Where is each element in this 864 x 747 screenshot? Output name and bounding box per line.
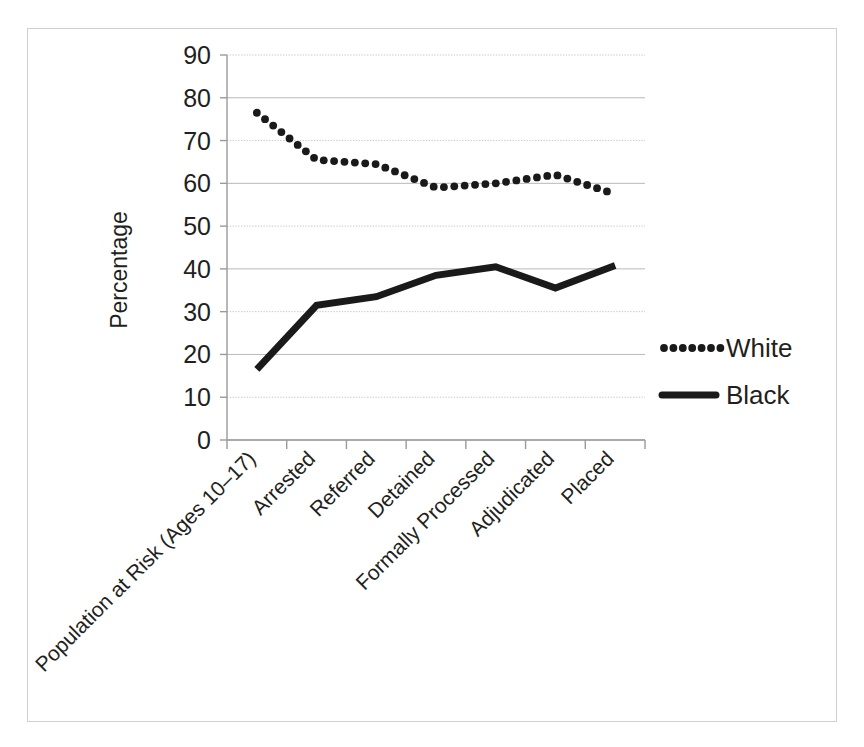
- white-series-dot: [253, 109, 261, 117]
- white-series-dot: [593, 184, 601, 192]
- white-series-dot: [554, 172, 562, 180]
- y-tick-labels: 0102030405060708090: [183, 41, 211, 454]
- y-tick-label: 60: [183, 169, 211, 197]
- legend-entry-white: White: [660, 333, 792, 363]
- legend-dot: [698, 344, 706, 352]
- legend: White Black: [660, 333, 792, 410]
- legend-entry-black: Black: [662, 380, 791, 410]
- white-series-dot: [381, 164, 389, 172]
- white-series-dot: [450, 182, 458, 190]
- y-tick-label: 40: [183, 255, 211, 283]
- dotted-line-icon: [660, 344, 724, 352]
- white-series-dot: [471, 181, 479, 189]
- legend-label-black: Black: [726, 380, 791, 410]
- legend-dot: [660, 344, 668, 352]
- white-series-dot: [492, 179, 500, 187]
- y-tick-label: 10: [183, 383, 211, 411]
- white-series-dot: [286, 135, 294, 143]
- white-series-dot: [430, 183, 438, 191]
- y-tick-marks: [220, 55, 227, 440]
- x-category-label: Population at Risk (Ages 10–17): [30, 447, 259, 676]
- y-tick-label: 90: [183, 41, 211, 69]
- white-series-dot: [512, 176, 520, 184]
- white-series-dot: [523, 175, 531, 183]
- white-series-dot: [563, 175, 571, 183]
- white-series-dot: [361, 159, 369, 167]
- legend-dot: [679, 344, 687, 352]
- white-series-dot: [261, 115, 269, 123]
- white-series-dot: [461, 182, 469, 190]
- legend-dot: [707, 344, 715, 352]
- y-gridlines: [227, 55, 645, 440]
- white-series-dot: [320, 156, 328, 164]
- data-series-layer: [253, 109, 615, 370]
- y-tick-label: 70: [183, 127, 211, 155]
- white-series-dot: [573, 178, 581, 186]
- x-category-label: Placed: [556, 447, 618, 509]
- x-tick-marks: [227, 440, 645, 449]
- y-tick-label: 50: [183, 212, 211, 240]
- legend-dot: [688, 344, 696, 352]
- white-series-dot: [502, 178, 510, 186]
- y-tick-label: 80: [183, 84, 211, 112]
- x-category-labels: Population at Risk (Ages 10–17)ArrestedR…: [30, 447, 618, 676]
- axis-lines: [227, 55, 645, 440]
- black-series-line: [257, 265, 615, 369]
- white-series-dot: [481, 180, 489, 188]
- white-series-dot: [294, 141, 302, 149]
- white-series-dot: [341, 158, 349, 166]
- white-series-dot: [543, 172, 551, 180]
- y-axis-title: Percentage: [106, 211, 132, 329]
- white-series-dot: [420, 179, 428, 187]
- white-series-dot: [310, 154, 318, 162]
- white-series-dot: [401, 171, 409, 179]
- line-chart: 0102030405060708090 Population at Risk (…: [0, 0, 864, 747]
- y-tick-label: 30: [183, 298, 211, 326]
- white-series-dot: [372, 160, 380, 168]
- white-series-dot: [330, 157, 338, 165]
- white-series-dot: [269, 122, 277, 130]
- series-white: [253, 109, 611, 195]
- white-series-dot: [277, 128, 285, 136]
- white-series-dot: [603, 187, 611, 195]
- white-series-dot: [302, 147, 310, 155]
- y-tick-label: 20: [183, 340, 211, 368]
- legend-dot: [670, 344, 678, 352]
- legend-dot: [717, 344, 725, 352]
- white-series-dot: [391, 168, 399, 176]
- white-series-dot: [533, 174, 541, 182]
- white-series-dot: [410, 175, 418, 183]
- white-series-dot: [583, 181, 591, 189]
- y-tick-label: 0: [197, 426, 211, 454]
- series-black: [257, 265, 615, 369]
- white-series-dot: [440, 183, 448, 191]
- white-series-dot: [351, 159, 359, 167]
- legend-label-white: White: [726, 333, 792, 363]
- figure-canvas: 0102030405060708090 Population at Risk (…: [0, 0, 864, 747]
